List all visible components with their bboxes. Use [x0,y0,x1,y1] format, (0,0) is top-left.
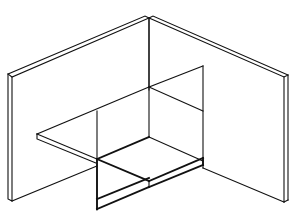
horizontal-section-plane [37,66,203,210]
right-wall-panel [149,16,288,202]
left-wall-panel [8,16,149,201]
isometric-drawing [0,0,302,218]
floor-slab [97,137,203,209]
diagram-canvas [0,0,302,218]
